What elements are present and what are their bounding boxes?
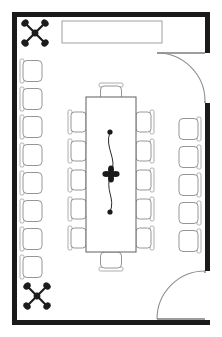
chair[interactable] xyxy=(68,226,86,250)
wall-east-lower xyxy=(205,320,210,325)
chair[interactable] xyxy=(68,139,86,163)
chair[interactable] xyxy=(136,168,154,192)
chair[interactable] xyxy=(136,197,154,221)
chair[interactable] xyxy=(136,110,154,134)
door-swing-arc-upper xyxy=(157,53,205,101)
wall-chairs-left[interactable] xyxy=(20,59,42,279)
door-upper-right[interactable] xyxy=(157,53,205,103)
credenza-top xyxy=(62,21,162,43)
chair[interactable] xyxy=(179,201,201,225)
wall-north xyxy=(12,12,210,17)
chair[interactable] xyxy=(68,110,86,134)
chair[interactable] xyxy=(20,59,42,83)
plant-core xyxy=(34,293,41,300)
chair[interactable] xyxy=(20,171,42,195)
centerpiece-bud-north xyxy=(107,129,112,134)
floor-plan-drawing xyxy=(0,0,222,337)
chair[interactable] xyxy=(179,173,201,197)
wall-east-middle xyxy=(205,103,210,271)
chair[interactable] xyxy=(179,117,201,141)
wall-south xyxy=(12,320,210,325)
chair[interactable] xyxy=(20,199,42,223)
chair[interactable] xyxy=(136,139,154,163)
table-chairs-left[interactable] xyxy=(68,110,86,250)
door-swing-arc-lower xyxy=(157,271,205,319)
centerpiece-bud-south xyxy=(107,209,112,214)
door-lower-right[interactable] xyxy=(157,271,205,319)
wall-chairs-right[interactable] xyxy=(179,117,201,253)
chair[interactable] xyxy=(20,87,42,111)
plant-top-left xyxy=(20,18,50,48)
floor-plan-canvas xyxy=(0,0,222,337)
table-chairs-right[interactable] xyxy=(136,110,154,250)
chair[interactable] xyxy=(179,229,201,253)
credenza[interactable] xyxy=(62,21,162,43)
table-chair-head-south[interactable] xyxy=(99,252,123,271)
chair[interactable] xyxy=(20,227,42,251)
plant-bottom-left xyxy=(22,281,52,311)
chair[interactable] xyxy=(68,168,86,192)
plant-core xyxy=(32,30,39,37)
chair[interactable] xyxy=(68,197,86,221)
chair[interactable] xyxy=(179,145,201,169)
chair[interactable] xyxy=(20,143,42,167)
wall-east-upper xyxy=(205,12,210,53)
chair[interactable] xyxy=(20,255,42,279)
chair[interactable] xyxy=(136,226,154,250)
wall-west xyxy=(12,12,17,325)
chair[interactable] xyxy=(20,115,42,139)
